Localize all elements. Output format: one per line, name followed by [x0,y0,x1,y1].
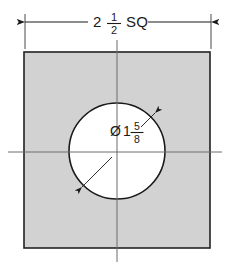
width-whole-number: 2 [93,13,102,30]
diameter-whole-number: 1 [123,123,131,139]
technical-drawing: 2 1 2 SQ Ø 1 5 8 [0,0,227,268]
width-fraction-denominator: 2 [111,24,117,36]
diameter-fraction-denominator: 8 [134,133,140,145]
drawing-canvas: 2 1 2 SQ Ø 1 5 8 [0,0,227,268]
diameter-symbol: Ø [110,123,121,139]
overall-width-dimension-label: 2 1 2 SQ [93,11,148,36]
diameter-fraction-numerator: 5 [134,120,140,132]
width-fraction-numerator: 1 [111,11,117,23]
width-suffix-sq: SQ [126,13,148,30]
